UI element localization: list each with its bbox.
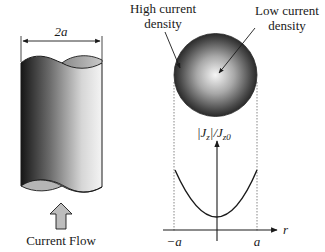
high-density-label-line2: density <box>144 16 182 31</box>
low-density-label-line2: density <box>268 18 306 33</box>
y-axis-label: |Jz|/Jz0 <box>197 125 231 142</box>
density-plot: |Jz|/Jz0 r −a a <box>163 125 289 249</box>
skin-effect-diagram: 2a Current Flow High current density Low… <box>0 0 325 252</box>
current-flow-arrow-icon <box>50 203 72 229</box>
conductor: 2a Current Flow <box>21 24 102 248</box>
density-curve <box>175 170 257 217</box>
high-density-label-line1: High current <box>130 1 196 16</box>
cross-section-disc <box>174 34 257 117</box>
right-tick-label: a <box>254 234 261 249</box>
high-density-pointer <box>165 32 180 68</box>
current-flow-label: Current Flow <box>26 233 96 248</box>
low-density-label-line1: Low current <box>255 3 319 18</box>
cross-section: High current density Low current density <box>130 1 319 117</box>
x-axis-label: r <box>283 222 289 237</box>
width-label: 2a <box>55 24 69 39</box>
left-tick-label: −a <box>166 234 182 249</box>
cylinder-body <box>21 56 102 192</box>
